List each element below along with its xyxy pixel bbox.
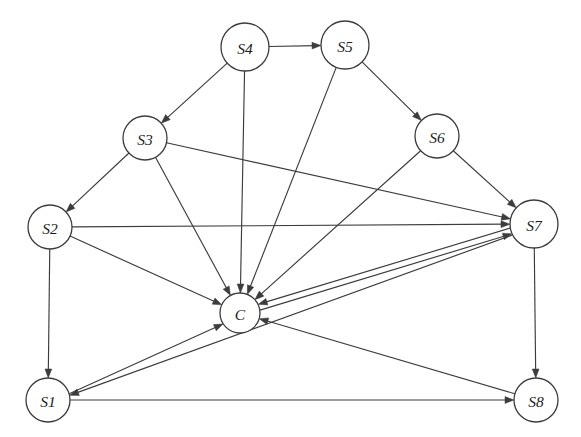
arrowhead [237,284,244,293]
arrowhead [501,214,511,221]
edge-s8-to-c [259,318,515,394]
node-label-s6: S6 [429,129,445,146]
node-s6[interactable]: S6 [415,114,459,158]
node-s2[interactable]: S2 [28,205,72,249]
edge-s5-to-c [247,67,336,294]
node-s1[interactable]: S1 [26,378,70,422]
edge-s7-to-s1 [70,235,513,395]
node-label-s5: S5 [337,38,353,55]
arrowhead [501,221,510,228]
edge-s4-to-s5 [269,42,321,49]
arrowhead [532,369,539,378]
node-label-s8: S8 [528,393,544,410]
arrowhead [502,233,512,240]
edges-layer [45,42,539,403]
arrowhead [247,285,253,295]
node-label-s7: S7 [526,217,543,234]
node-c[interactable]: C [220,293,260,333]
node-s5[interactable]: S5 [321,21,369,69]
graph-canvas: S1S2S3S4S5S6S7S8C [0,0,581,437]
edge-s4-to-c [237,71,244,293]
edge-s5-to-s6 [362,62,421,121]
arrowhead [505,397,514,404]
edge-s3-to-s2 [66,153,129,212]
edge-s1-to-s8 [70,397,514,404]
edge-s2-to-s1 [45,249,52,378]
edge-s3-to-s7 [166,143,510,220]
edge-s1-to-c [69,324,223,394]
node-s7[interactable]: S7 [510,200,558,248]
arrowhead [258,298,268,305]
arrowhead [259,318,269,325]
node-s8[interactable]: S8 [514,378,558,422]
graph-diagram: S1S2S3S4S5S6S7S8C [0,0,581,437]
arrowhead [213,324,223,331]
edge-s7-to-c [258,228,510,305]
arrowhead [212,298,222,305]
arrowhead [312,42,321,49]
edge-s2-to-s7 [72,221,510,228]
edge-s6-to-s7 [453,151,516,208]
arrowhead [223,286,230,296]
node-label-s2: S2 [42,220,58,237]
arrowhead [45,369,52,378]
nodes-layer: S1S2S3S4S5S6S7S8C [26,21,558,422]
node-label-s4: S4 [237,40,253,57]
node-label-s3: S3 [137,131,153,148]
node-label-c: C [235,306,246,323]
node-label-s1: S1 [40,393,56,410]
edge-c-to-s7 [260,233,512,310]
edge-s7-to-s8 [532,248,539,378]
node-s3[interactable]: S3 [123,116,167,160]
node-s4[interactable]: S4 [221,23,269,71]
edge-s2-to-c [70,236,222,305]
edge-s4-to-s3 [161,63,227,123]
